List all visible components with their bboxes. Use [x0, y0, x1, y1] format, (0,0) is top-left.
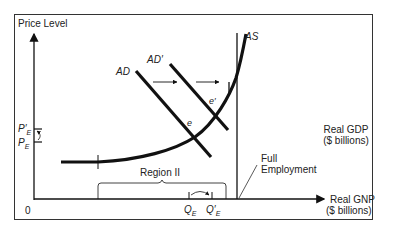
region-ii-label: Region II — [140, 167, 180, 178]
origin-label: 0 — [25, 205, 31, 216]
qe-prime-label: Q′E — [206, 204, 220, 216]
full-employment-label-line2: Employment — [261, 164, 317, 175]
side-label-line1: Real GDP — [318, 124, 374, 135]
ad-prime-label: AD′ — [147, 54, 163, 65]
full-employment-label-line1: Full — [261, 153, 277, 164]
ad-curve — [136, 71, 211, 157]
e-prime-label: e′ — [209, 96, 216, 107]
pe-prime-label: P′E — [18, 123, 31, 135]
ad-label: AD — [116, 66, 130, 77]
x-axis-label-line2: ($ billions) — [326, 205, 372, 216]
pe-label: PE — [18, 137, 29, 149]
region-ii-bracket — [98, 180, 226, 199]
full-employment-pointer — [239, 165, 257, 198]
x-axis-label-line1: Real GNP — [330, 194, 375, 205]
side-label-line2: ($ billions) — [318, 135, 374, 146]
y-axis-label: Price Level — [18, 18, 67, 29]
qe-label: QE — [184, 204, 196, 216]
quantity-rise-arrow — [191, 192, 209, 196]
as-label: AS — [245, 31, 258, 42]
price-rise-arrow — [37, 131, 40, 140]
e-label: e — [187, 118, 192, 129]
